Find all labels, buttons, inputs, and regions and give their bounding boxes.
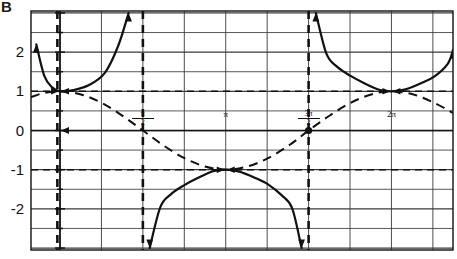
y-axis-tick-label: 0 <box>0 122 24 139</box>
x-tick-denominator: 2 <box>132 119 154 127</box>
x-tick-numerator: π <box>223 109 228 119</box>
y-axis-tick-label: 2 <box>0 43 24 60</box>
figure-secant-cosine-graph: B 210-1-2 <box>0 0 457 259</box>
x-tick-denominator: 2 <box>298 119 320 127</box>
y-axis-tick-label: -1 <box>0 161 24 178</box>
x-axis-tick-label: π <box>215 110 237 119</box>
x-axis-tick-label: π2 <box>132 110 154 127</box>
graph-canvas <box>0 0 457 259</box>
x-axis-tick-label: 3π2 <box>298 110 320 127</box>
y-axis-tick-label: -2 <box>0 200 24 217</box>
x-axis-tick-label: 2π <box>380 110 402 119</box>
x-tick-numerator: 2π <box>387 109 396 119</box>
y-axis-tick-label: 1 <box>0 82 24 99</box>
